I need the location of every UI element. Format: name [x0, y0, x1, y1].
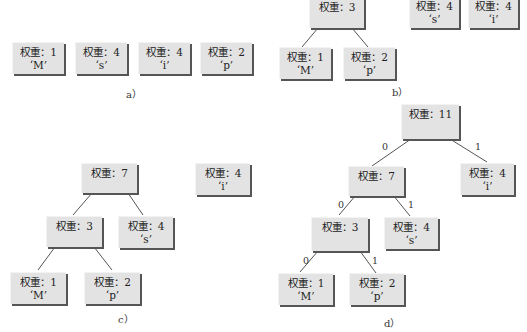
node-char: ‘s’ [76, 59, 127, 72]
node-weight: 权重：2 [85, 276, 140, 289]
node-weight: 权重：4 [385, 221, 438, 234]
node-m: 权重：1 ‘M’ [10, 272, 66, 304]
node-s: 权重：4 ‘s’ [384, 217, 438, 249]
node-weight: 权重：7 [82, 167, 137, 180]
node-weight: 权重：4 [196, 167, 250, 180]
node-char: ‘i’ [469, 13, 518, 26]
node-weight: 权重：3 [312, 221, 368, 234]
node-char: ‘p’ [344, 64, 395, 77]
node-char: ‘i’ [461, 180, 514, 193]
node-char: ‘p’ [85, 289, 140, 302]
node-s: 权重：4 ‘s’ [409, 0, 459, 28]
node-weight: 权重：3 [310, 1, 364, 14]
node-i: 权重：4 ‘i’ [460, 163, 514, 195]
node-m: 权重：1 ‘M’ [278, 273, 333, 305]
huffman-tree-figure: 权重：1 ‘M’ 权重：4 ‘s’ 权重：4 ‘i’ 权重：2 ‘p’ a） 权… [0, 0, 527, 332]
node-i: 权重：4 ‘i’ [195, 163, 250, 195]
caption-a: a） [126, 86, 142, 101]
node-weight: 权重：4 [410, 0, 459, 13]
node-s: 权重：4 ‘s’ [118, 216, 173, 248]
node-i: 权重：4 ‘i’ [138, 42, 190, 74]
node-weight: 权重：4 [469, 0, 518, 13]
node-p: 权重：2 ‘p’ [343, 47, 395, 79]
node-weight-7: 权重：7 [348, 166, 404, 196]
node-p: 权重：2 ‘p’ [349, 273, 404, 305]
node-char: ‘s’ [119, 233, 173, 246]
node-weight: 权重：4 [76, 46, 127, 59]
node-char: ‘i’ [196, 180, 250, 193]
node-char: ‘s’ [385, 234, 438, 247]
node-weight: 权重：2 [344, 51, 395, 64]
edge-label-1: 1 [475, 141, 481, 152]
node-weight: 权重：7 [349, 170, 404, 183]
node-p: 权重：2 ‘p’ [84, 272, 140, 304]
node-weight: 权重：1 [279, 277, 333, 290]
caption-b: b） [392, 84, 408, 99]
node-weight: 权重：11 [402, 108, 459, 121]
edge-label-0: 0 [338, 199, 344, 210]
node-weight: 权重：2 [350, 277, 404, 290]
node-i: 权重：4 ‘i’ [468, 0, 518, 28]
node-char: ‘p’ [201, 59, 252, 72]
edge-label-1: 1 [408, 199, 414, 210]
node-weight: 权重：3 [47, 220, 102, 233]
node-weight-3: 权重：3 [309, 0, 364, 28]
caption-d: d） [384, 315, 400, 330]
node-weight: 权重：4 [461, 167, 514, 180]
caption-c: c） [118, 311, 134, 326]
node-char: ‘p’ [350, 290, 404, 303]
node-char: ‘i’ [139, 59, 190, 72]
node-char: ‘M’ [11, 289, 66, 302]
node-m: 权重：1 ‘M’ [279, 47, 331, 79]
node-weight: 权重：1 [13, 46, 64, 59]
node-char: ‘M’ [279, 290, 333, 303]
node-m: 权重：1 ‘M’ [12, 42, 64, 74]
node-weight-7: 权重：7 [81, 163, 137, 193]
edge-label-1: 1 [372, 255, 378, 266]
node-weight: 权重：4 [139, 46, 190, 59]
node-weight: 权重：1 [280, 51, 331, 64]
node-weight-3: 权重：3 [46, 216, 102, 247]
node-weight-11: 权重：11 [401, 104, 459, 139]
node-weight: 权重：4 [119, 220, 173, 233]
node-p: 权重：2 ‘p’ [200, 42, 252, 74]
node-s: 权重：4 ‘s’ [75, 42, 127, 74]
node-char: ‘s’ [410, 13, 459, 26]
node-weight: 权重：2 [201, 46, 252, 59]
node-weight-3: 权重：3 [311, 217, 368, 251]
edge-label-0: 0 [382, 141, 388, 152]
node-char: ‘M’ [13, 59, 64, 72]
node-weight: 权重：1 [11, 276, 66, 289]
edge-label-0: 0 [303, 255, 309, 266]
node-char: ‘M’ [280, 64, 331, 77]
